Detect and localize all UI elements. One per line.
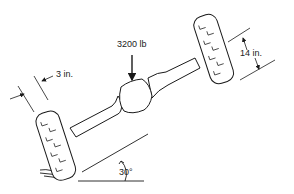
diagram-canvas: 3200 lb 3 in. 14 in. 30°	[0, 0, 294, 194]
dimension-arrow-down-icon	[255, 58, 259, 69]
axle	[70, 58, 200, 137]
differential-housing	[120, 79, 152, 113]
dimension-extension-line-bottom	[240, 60, 275, 80]
axle-diagram: 3200 lb 3 in. 14 in. 30°	[0, 0, 294, 194]
tire-width-dimension	[10, 76, 53, 112]
left-wheel	[34, 109, 78, 183]
left-axle-shaft	[70, 96, 122, 137]
load-indicator: 3200 lb	[117, 39, 147, 80]
load-label: 3200 lb	[117, 39, 147, 49]
dimension-arrow-left-icon	[10, 94, 24, 99]
dimension-arrow-right-icon	[42, 76, 53, 81]
wheel-offset-label: 14 in.	[240, 48, 262, 58]
right-wheel	[191, 12, 235, 86]
dimension-extension-line-left	[18, 86, 34, 112]
angle-label: 30°	[119, 167, 133, 177]
dimension-extension-line-top	[228, 28, 250, 42]
right-axle-shaft	[148, 58, 200, 98]
incline-line	[82, 134, 148, 172]
tire-width-label: 3 in.	[56, 69, 73, 79]
